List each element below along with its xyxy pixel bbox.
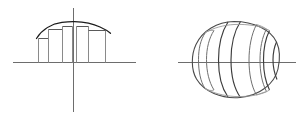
shell-1	[199, 30, 215, 90]
figure-container: Riemann rectangles under a semicircular …	[0, 0, 303, 120]
math-diagram-svg	[0, 0, 303, 120]
rectangle-2	[49, 30, 63, 63]
shell-2	[219, 22, 241, 98]
rectangle-5	[89, 31, 106, 63]
rectangle-4	[77, 27, 89, 63]
left-panel-group	[13, 8, 136, 112]
right-panel-group	[178, 22, 296, 98]
rectangle-3	[63, 27, 73, 63]
rectangle-1	[39, 39, 49, 63]
